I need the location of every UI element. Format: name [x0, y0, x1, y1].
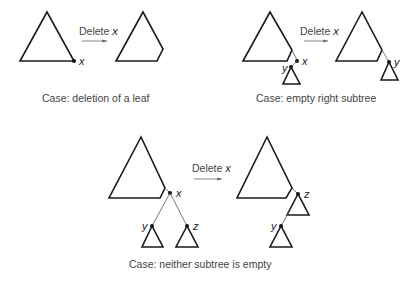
caption-empty-right: Case: empty right subtree [256, 92, 376, 104]
label-y: y [270, 220, 278, 232]
label-y: y [393, 56, 401, 68]
delete-label: Delete x [300, 25, 339, 37]
label-z: z [192, 220, 199, 232]
label-x: x [78, 55, 85, 67]
edge-parent-x [292, 50, 297, 60]
caption-leaf: Case: deletion of a leaf [42, 92, 149, 104]
label-x: x [301, 55, 308, 67]
tree-shape [109, 137, 165, 198]
delete-label: Delete x [79, 25, 118, 37]
case-neither-empty: x y z Delete x z y Case: neither subtree… [109, 137, 310, 270]
edge-parent-y [382, 50, 389, 62]
label-x: x [175, 187, 182, 199]
bst-deletion-diagram: x Delete x Case: deletion of a leaf x y … [0, 0, 419, 281]
case-neither-empty-before: x y z [109, 137, 199, 247]
label-y: y [141, 220, 149, 232]
tree-shape [243, 12, 292, 61]
label-z: z [303, 188, 310, 200]
case-leaf-after [116, 12, 163, 61]
tree-shape [237, 137, 292, 198]
case-leaf-operation: Delete x [79, 25, 118, 41]
case-neither-empty-operation: Delete x [192, 162, 231, 179]
case-empty-right-operation: Delete x [300, 25, 339, 41]
node-x [72, 59, 76, 63]
case-empty-right-after: y [336, 12, 401, 80]
case-leaf-before: x [20, 12, 85, 67]
case-leaf: x Delete x Case: deletion of a leaf [20, 12, 163, 104]
caption-neither-empty: Case: neither subtree is empty [129, 258, 272, 270]
tree-shape [336, 12, 382, 61]
case-empty-right-before: x y [243, 12, 308, 84]
delete-label: Delete x [192, 162, 231, 174]
tree-shape-after [116, 12, 163, 61]
case-neither-empty-after: z y [237, 137, 310, 247]
tree-triangle [20, 12, 74, 61]
edge-z-y [281, 210, 290, 226]
case-empty-right: x y Delete x y Case: empty right subtree [243, 12, 401, 104]
